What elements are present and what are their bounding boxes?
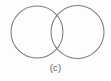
right-circle xyxy=(51,6,104,59)
venn-diagram-figure: (c) xyxy=(0,0,111,81)
left-circle xyxy=(11,6,63,58)
figure-caption: (c) xyxy=(0,62,111,74)
